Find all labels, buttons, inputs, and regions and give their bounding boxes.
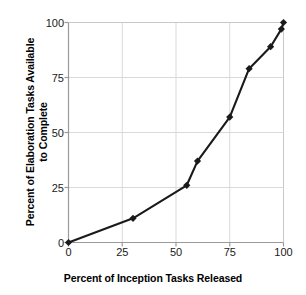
- x-tick-label: 50: [156, 246, 196, 258]
- data-point-marker: [280, 19, 287, 26]
- y-tick-label: 100: [38, 17, 64, 29]
- gridlines: [69, 23, 284, 243]
- x-tick-label: 75: [210, 246, 250, 258]
- y-tick-label: 50: [38, 127, 64, 139]
- x-tick-label: 100: [264, 246, 304, 258]
- line-chart: Percent of Elaboration Tasks Available t…: [0, 0, 306, 295]
- y-tick-label: 75: [38, 72, 64, 84]
- x-axis-title: Percent of Inception Tasks Released: [0, 272, 306, 284]
- x-tick-label: 25: [102, 246, 142, 258]
- x-tick-label: 0: [49, 246, 89, 258]
- axis-ticks: [65, 23, 284, 247]
- y-tick-label: 25: [38, 182, 64, 194]
